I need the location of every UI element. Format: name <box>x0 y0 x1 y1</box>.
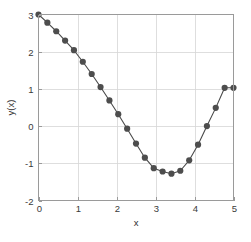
data-point-marker <box>106 97 112 103</box>
data-point-marker <box>80 59 86 65</box>
x-tick-label: 3 <box>154 203 159 214</box>
data-point-marker <box>222 85 228 91</box>
data-point-marker <box>71 47 77 53</box>
x-tick-label: 5 <box>232 203 237 214</box>
y-tick-label: -2 <box>25 196 33 207</box>
y-axis-title: y(x) <box>5 100 16 116</box>
y-tick-label: 3 <box>28 10 33 21</box>
data-point-marker <box>177 168 183 174</box>
y-tick-label: 2 <box>28 47 33 58</box>
y-tick-label: -1 <box>25 158 33 169</box>
data-point-marker <box>186 157 192 163</box>
data-point-marker <box>53 28 59 34</box>
data-point-marker <box>62 37 68 43</box>
data-point-marker <box>168 171 174 177</box>
data-point-marker <box>124 126 130 132</box>
y-tick-label: 0 <box>28 121 33 132</box>
data-point-marker <box>195 142 201 148</box>
axis-frame-left-bottom <box>39 15 234 201</box>
x-tick-label: 1 <box>76 203 81 214</box>
chart-figure: 012345-2-10123xy(x) <box>0 0 251 242</box>
data-point-marker <box>204 123 210 129</box>
data-point-marker <box>44 20 50 26</box>
y-tick-label: 1 <box>28 84 33 95</box>
axis-frame-top-right <box>39 15 234 201</box>
data-point-marker <box>89 71 95 77</box>
data-point-marker <box>160 168 166 174</box>
data-point-marker <box>97 84 103 90</box>
x-tick-label: 4 <box>193 203 198 214</box>
data-series-line <box>39 15 234 174</box>
x-tick-label: 0 <box>37 203 42 214</box>
x-tick-label: 2 <box>115 203 120 214</box>
data-point-marker <box>115 111 121 117</box>
line-chart-plot: 012345-2-10123xy(x) <box>0 0 251 242</box>
x-axis-title: x <box>134 217 139 228</box>
data-point-marker <box>151 165 157 171</box>
data-point-marker <box>133 140 139 146</box>
data-point-marker <box>213 105 219 111</box>
data-point-marker <box>142 155 148 161</box>
